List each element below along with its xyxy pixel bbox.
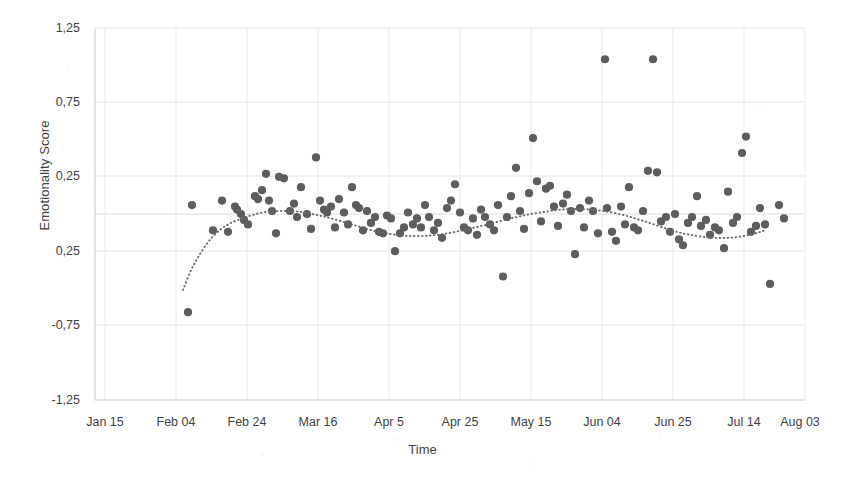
data-point [425,213,433,221]
x-tick-label-5: Apr 25 [420,415,500,429]
data-point [649,55,657,63]
data-point [280,174,288,182]
data-point [529,134,537,142]
x-tick-label-7: Jun 04 [562,415,642,429]
data-point [331,223,339,231]
data-point [413,214,421,222]
data-point [594,229,602,237]
data-point [693,192,701,200]
data-point [720,244,728,252]
data-point [494,201,502,209]
y-tick-label-5: -1,25 [18,393,80,407]
data-point [290,199,298,207]
data-point [434,219,442,227]
data-point [639,207,647,215]
data-point [761,220,769,228]
data-point [421,201,429,209]
data-point [634,226,642,234]
x-tick-label-4: Apr 5 [349,415,429,429]
data-point [554,222,562,230]
x-axis-title: Time [0,442,845,457]
x-tick-label-0: Jan 15 [65,415,145,429]
data-point [312,153,320,161]
data-point [752,222,760,230]
data-point [265,197,273,205]
data-point [756,204,764,212]
data-point [724,188,732,196]
data-point [224,228,232,236]
data-point [525,189,533,197]
data-point [571,250,579,258]
data-point [451,180,459,188]
data-point [559,199,567,207]
data-point [254,195,262,203]
data-point [293,213,301,221]
data-point [567,207,575,215]
data-point [621,220,629,228]
data-point [490,226,498,234]
x-tick-label-10: Aug 03 [760,415,840,429]
x-tick-label-2: Feb 24 [207,415,287,429]
data-point [507,192,515,200]
data-point [516,207,524,215]
data-point [576,204,584,212]
y-axis-title: Emotionality Score [37,76,52,276]
data-point [612,237,620,245]
data-point [244,220,252,228]
data-point [780,214,788,222]
x-tick-label-3: Mar 16 [278,415,358,429]
data-point [585,197,593,205]
x-tick-label-6: May 15 [491,415,571,429]
data-point [209,226,217,234]
plot-canvas [0,0,845,483]
data-point [608,228,616,236]
data-point [447,197,455,205]
data-point [473,231,481,239]
data-point [625,183,633,191]
data-point [775,201,783,209]
data-point [348,183,356,191]
data-point [766,280,774,288]
data-point [481,213,489,221]
data-point [688,213,696,221]
data-point [738,149,746,157]
data-point [327,202,335,210]
data-point [520,225,528,233]
data-point [430,226,438,234]
data-point [371,213,379,221]
data-point [335,195,343,203]
data-point [601,55,609,63]
data-point [580,223,588,231]
data-point [417,223,425,231]
data-point [733,213,741,221]
data-point [218,197,226,205]
y-tick-label-0: 1,25 [18,21,80,35]
data-point [550,202,558,210]
data-point [188,201,196,209]
data-point [297,183,305,191]
data-point [512,164,520,172]
x-tick-label-1: Feb 04 [136,415,216,429]
data-point [563,191,571,199]
data-point [272,229,280,237]
data-point [533,177,541,185]
data-point [742,133,750,141]
data-point [316,197,324,205]
data-point [644,167,652,175]
data-point [671,210,679,218]
data-point [653,168,661,176]
data-point [456,208,464,216]
data-point [715,226,723,234]
data-point [702,216,710,224]
data-point [404,208,412,216]
data-point [499,272,507,280]
data-point [184,308,192,316]
data-point [617,202,625,210]
x-tick-label-8: Jun 25 [633,415,713,429]
data-point [307,225,315,233]
data-point [391,247,399,255]
data-point [666,228,674,236]
data-point [477,205,485,213]
data-point [469,214,477,222]
data-point [387,214,395,222]
